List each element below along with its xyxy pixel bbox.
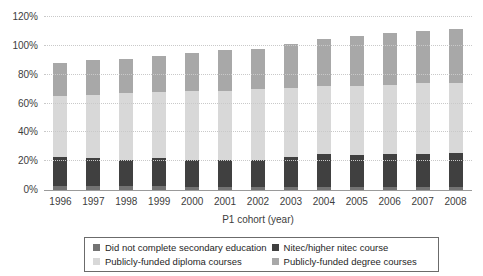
segment-2007 bbox=[416, 83, 430, 154]
x-axis-tick-2008: 2008 bbox=[439, 196, 472, 207]
gridline-80 bbox=[44, 74, 472, 75]
segment-2005 bbox=[350, 86, 364, 155]
bar-1997 bbox=[86, 60, 100, 190]
legend-item-2: Publicly-funded diploma courses bbox=[93, 256, 272, 267]
segment-2004 bbox=[317, 86, 331, 154]
segment-1999 bbox=[152, 186, 166, 190]
bar-2001 bbox=[218, 50, 232, 190]
segment-1996 bbox=[53, 157, 67, 186]
segment-2000 bbox=[185, 160, 199, 187]
segment-2008 bbox=[449, 153, 463, 188]
x-axis-tick-2007: 2007 bbox=[406, 196, 439, 207]
bar-2003 bbox=[284, 44, 298, 190]
segment-2008 bbox=[449, 187, 463, 190]
x-axis-tick-2000: 2000 bbox=[176, 196, 209, 207]
x-axis-tick-2002: 2002 bbox=[242, 196, 275, 207]
segment-1997 bbox=[86, 95, 100, 158]
x-axis-tick-1999: 1999 bbox=[143, 196, 176, 207]
segment-2003 bbox=[284, 187, 298, 190]
segment-2006 bbox=[383, 154, 397, 187]
segment-2006 bbox=[383, 85, 397, 154]
x-axis-title: P1 cohort (year) bbox=[44, 214, 472, 225]
legend-swatch-icon bbox=[93, 258, 100, 265]
y-axis-tick-20: 20% bbox=[0, 155, 38, 166]
x-axis-tick-1996: 1996 bbox=[44, 196, 77, 207]
legend-label: Did not complete secondary education bbox=[105, 242, 267, 253]
segment-1998 bbox=[119, 59, 133, 94]
legend-swatch-icon bbox=[272, 258, 279, 265]
segment-1997 bbox=[86, 158, 100, 185]
segment-1997 bbox=[86, 186, 100, 190]
y-axis-tick-60: 60% bbox=[0, 98, 38, 109]
x-axis-tick-2001: 2001 bbox=[209, 196, 242, 207]
gridline-100 bbox=[44, 45, 472, 46]
segment-2002 bbox=[251, 89, 265, 160]
segment-2000 bbox=[185, 91, 199, 160]
y-axis-tick-100: 100% bbox=[0, 40, 38, 51]
segment-2007 bbox=[416, 31, 430, 83]
segment-1996 bbox=[53, 186, 67, 190]
legend-swatch-icon bbox=[93, 244, 100, 251]
segment-2004 bbox=[317, 154, 331, 187]
segment-2001 bbox=[218, 50, 232, 90]
x-axis-tick-2003: 2003 bbox=[274, 196, 307, 207]
legend-box: Did not complete secondary educationNite… bbox=[84, 237, 439, 272]
bar-2005 bbox=[350, 36, 364, 190]
bar-2004 bbox=[317, 39, 331, 190]
segment-2007 bbox=[416, 154, 430, 187]
segment-2005 bbox=[350, 36, 364, 86]
bar-2006 bbox=[383, 33, 397, 190]
bar-1998 bbox=[119, 59, 133, 190]
stacked-bar-chart: 0%20%40%60%80%100%120% 19961997199819992… bbox=[0, 0, 483, 276]
segment-2002 bbox=[251, 160, 265, 187]
segment-2000 bbox=[185, 187, 199, 190]
segment-1999 bbox=[152, 158, 166, 185]
x-axis-tick-1997: 1997 bbox=[77, 196, 110, 207]
gridline-120 bbox=[44, 16, 472, 17]
y-axis-tick-0: 0% bbox=[0, 184, 38, 195]
segment-2008 bbox=[449, 29, 463, 84]
y-axis-tick-80: 80% bbox=[0, 69, 38, 80]
segment-2005 bbox=[350, 187, 364, 190]
segment-1998 bbox=[119, 186, 133, 190]
bar-2002 bbox=[251, 49, 265, 190]
segment-2002 bbox=[251, 49, 265, 89]
gridline-20 bbox=[44, 160, 472, 161]
x-axis-line bbox=[44, 190, 472, 191]
segment-2003 bbox=[284, 44, 298, 87]
legend-label: Publicly-funded degree courses bbox=[284, 256, 417, 267]
plot-area bbox=[44, 17, 472, 190]
segment-2003 bbox=[284, 88, 298, 157]
segment-2002 bbox=[251, 187, 265, 190]
segment-2004 bbox=[317, 187, 331, 190]
segment-2000 bbox=[185, 53, 199, 90]
segment-2001 bbox=[218, 91, 232, 160]
gridline-60 bbox=[44, 103, 472, 104]
x-axis-tick-2004: 2004 bbox=[307, 196, 340, 207]
bar-2008 bbox=[449, 29, 463, 190]
x-axis-tick-2005: 2005 bbox=[340, 196, 373, 207]
legend-label: Publicly-funded diploma courses bbox=[105, 256, 242, 267]
y-axis-tick-120: 120% bbox=[0, 11, 38, 22]
segment-1997 bbox=[86, 60, 100, 95]
legend-item-0: Did not complete secondary education bbox=[93, 242, 272, 253]
segment-1998 bbox=[119, 160, 133, 186]
segment-1996 bbox=[53, 96, 67, 157]
legend-item-1: Nitec/higher nitec course bbox=[272, 242, 430, 253]
bar-2007 bbox=[416, 31, 430, 190]
legend-label: Nitec/higher nitec course bbox=[284, 242, 389, 253]
x-axis-tick-1998: 1998 bbox=[110, 196, 143, 207]
bar-1999 bbox=[152, 56, 166, 190]
legend-item-3: Publicly-funded degree courses bbox=[272, 256, 430, 267]
segment-2001 bbox=[218, 160, 232, 187]
segment-2001 bbox=[218, 187, 232, 190]
segment-2006 bbox=[383, 33, 397, 85]
bars-container bbox=[44, 17, 472, 190]
x-axis-labels: 1996199719981999200020012002200320042005… bbox=[44, 196, 472, 207]
segment-1996 bbox=[53, 63, 67, 96]
bar-1996 bbox=[53, 63, 67, 190]
segment-2007 bbox=[416, 187, 430, 190]
segment-2008 bbox=[449, 83, 463, 152]
segment-2006 bbox=[383, 187, 397, 190]
x-axis-tick-2006: 2006 bbox=[373, 196, 406, 207]
